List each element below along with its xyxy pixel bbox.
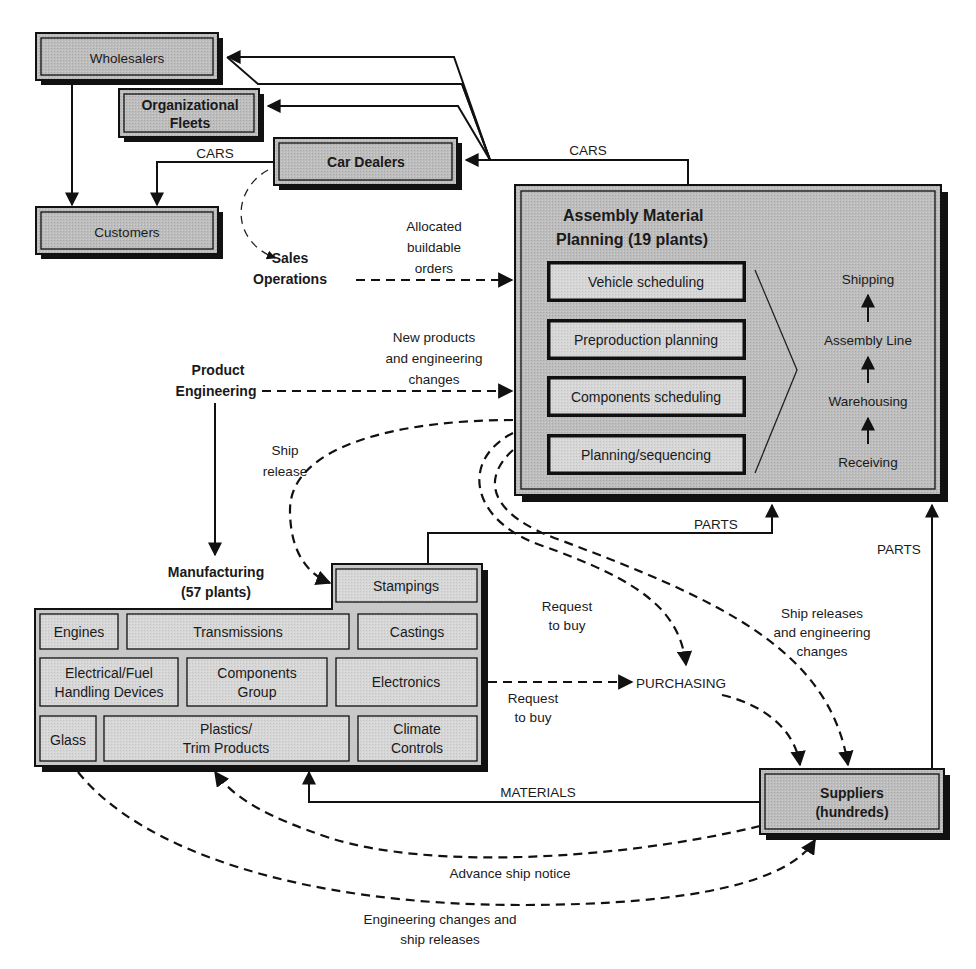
advance-ship-label: Advance ship notice <box>450 866 571 881</box>
svg-text:Components: Components <box>217 665 296 681</box>
manufacturing-title-2: (57 plants) <box>181 584 251 600</box>
new-products-label-2: and engineering <box>386 351 483 366</box>
assembly-title-2: Planning (19 plants) <box>556 231 708 248</box>
parts-right-label: PARTS <box>877 542 921 557</box>
edge-dealers-customers <box>157 162 274 205</box>
assembly-title-1: Assembly Material <box>563 207 704 224</box>
sub-planning-sequencing[interactable]: Planning/sequencing <box>547 434 746 475</box>
org-fleets-label-1: Organizational <box>141 97 238 113</box>
product-eng-label-1: Product <box>192 362 245 378</box>
wholesalers-label: Wholesalers <box>90 51 165 66</box>
ship-release-label-2: release <box>263 464 307 479</box>
svg-text:Stampings: Stampings <box>373 578 439 594</box>
cell-transmissions[interactable]: Transmissions <box>127 614 349 649</box>
svg-text:Glass: Glass <box>50 732 86 748</box>
cell-stampings[interactable]: Stampings <box>336 569 477 602</box>
sub-components-scheduling[interactable]: Components scheduling <box>547 376 746 417</box>
cell-glass[interactable]: Glass <box>40 716 96 761</box>
svg-text:Plastics/: Plastics/ <box>200 721 252 737</box>
sub-vehicle-scheduling[interactable]: Vehicle scheduling <box>547 261 746 302</box>
ship-releases-eng-label-2: and engineering <box>774 625 871 640</box>
edge-assembly-cars <box>490 160 688 185</box>
stage-shipping: Shipping <box>842 272 895 287</box>
eng-changes-label-1: Engineering changes and <box>363 912 516 927</box>
cell-electrical-fuel[interactable]: Electrical/Fuel Handling Devices <box>40 658 178 706</box>
svg-text:Group: Group <box>238 684 277 700</box>
edge-dealers-salesops <box>241 170 275 258</box>
ship-releases-eng-label-1: Ship releases <box>781 606 863 621</box>
parts-mid-label: PARTS <box>694 517 738 532</box>
car-dealers-label: Car Dealers <box>327 154 405 170</box>
organizational-fleets-node[interactable]: Organizational Fleets <box>119 89 264 142</box>
cell-castings[interactable]: Castings <box>358 614 477 649</box>
product-eng-label-2: Engineering <box>176 383 257 399</box>
stage-warehousing: Warehousing <box>828 394 907 409</box>
ship-release-label-1: Ship <box>271 443 298 458</box>
cell-plastics-trim[interactable]: Plastics/ Trim Products <box>104 716 349 761</box>
request-lower-label-1: Request <box>508 691 559 706</box>
edge-advance-ship-notice <box>215 772 760 857</box>
request-lower-label-2: to buy <box>515 710 552 725</box>
cell-electronics[interactable]: Electronics <box>336 658 477 706</box>
sales-ops-label-2: Operations <box>253 271 327 287</box>
purchasing-label: PURCHASING <box>636 676 726 691</box>
svg-text:Electronics: Electronics <box>372 674 440 690</box>
cell-climate-controls[interactable]: Climate Controls <box>358 716 477 761</box>
stage-receiving: Receiving <box>838 455 897 470</box>
svg-text:Engines: Engines <box>54 624 105 640</box>
supply-chain-diagram: Wholesalers Organizational Fleets Car De… <box>0 0 976 969</box>
cell-engines[interactable]: Engines <box>40 614 118 649</box>
svg-text:Transmissions: Transmissions <box>193 624 283 640</box>
materials-label: MATERIALS <box>500 785 576 800</box>
request-upper-label-1: Request <box>542 599 593 614</box>
suppliers-label-1: Suppliers <box>820 785 884 801</box>
suppliers-label-2: (hundreds) <box>815 804 888 820</box>
car-dealers-node[interactable]: Car Dealers <box>274 138 462 190</box>
manufacturing-title-1: Manufacturing <box>168 564 264 580</box>
svg-text:Trim Products: Trim Products <box>183 740 270 756</box>
svg-text:Handling Devices: Handling Devices <box>55 684 164 700</box>
org-fleets-label-2: Fleets <box>170 115 211 131</box>
cell-components-group[interactable]: Components Group <box>187 658 327 706</box>
edge-ship-release <box>290 420 513 583</box>
new-products-label-3: changes <box>408 372 459 387</box>
stage-assembly-line: Assembly Line <box>824 333 912 348</box>
preproduction-planning-label: Preproduction planning <box>574 332 718 348</box>
sales-ops-label-1: Sales <box>272 250 309 266</box>
suppliers-node[interactable]: Suppliers (hundreds) <box>760 769 950 840</box>
sub-preproduction-planning[interactable]: Preproduction planning <box>547 319 746 360</box>
svg-text:Electrical/Fuel: Electrical/Fuel <box>65 665 153 681</box>
cars-left-label: CARS <box>196 146 234 161</box>
edge-eng-changes-ship-releases <box>78 772 815 905</box>
planning-sequencing-label: Planning/sequencing <box>581 447 711 463</box>
components-scheduling-label: Components scheduling <box>571 389 721 405</box>
new-products-label-1: New products <box>393 330 476 345</box>
edge-purchasing-suppliers <box>722 695 800 765</box>
manufacturing-node[interactable]: Stampings Engines Transmissions Castings… <box>35 564 488 772</box>
svg-text:Controls: Controls <box>391 740 443 756</box>
allocated-label-2: buildable <box>407 240 461 255</box>
wholesalers-node[interactable]: Wholesalers <box>36 33 223 85</box>
eng-changes-label-2: ship releases <box>400 932 480 947</box>
allocated-label-3: orders <box>415 261 454 276</box>
vehicle-scheduling-label: Vehicle scheduling <box>588 274 704 290</box>
request-upper-label-2: to buy <box>549 618 586 633</box>
cars-top-label: CARS <box>569 143 607 158</box>
svg-text:Climate: Climate <box>393 721 441 737</box>
customers-node[interactable]: Customers <box>36 207 223 259</box>
customers-label: Customers <box>94 225 160 240</box>
allocated-label-1: Allocated <box>406 219 462 234</box>
ship-releases-eng-label-3: changes <box>796 644 847 659</box>
assembly-material-planning-node[interactable]: Assembly Material Planning (19 plants) V… <box>515 185 948 502</box>
svg-text:Castings: Castings <box>390 624 444 640</box>
